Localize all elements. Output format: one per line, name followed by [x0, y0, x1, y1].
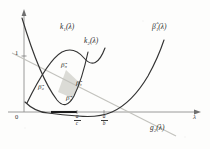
fraction-numerator: a — [98, 114, 110, 120]
fraction-denominator: c — [71, 121, 83, 127]
curve-label-beta1: β̂₁(λ) — [152, 23, 167, 31]
y-axis-arrow-icon — [22, 9, 27, 16]
origin-label: 0 — [15, 114, 18, 121]
curve-label-g2: g₂(λ) — [150, 124, 165, 132]
x-axis-label-lambda: λ — [193, 114, 196, 121]
curve-label-k1: k₁(λ) — [60, 23, 74, 31]
fraction-denominator: b — [98, 121, 110, 127]
x-tick-fraction-a-over-b: a b — [98, 114, 110, 127]
y-tick-label-1: 1 — [15, 50, 18, 57]
figure-page: k₁(λ) k₂(λ) β̂₁(λ) g₂(λ) β̂₃ β̂₂ β̂₁ β̂₄… — [0, 0, 210, 149]
curve-beta1 — [25, 40, 164, 117]
point-label-beta2: β̂₂ — [38, 84, 44, 91]
curve-label-k2: k₂(λ) — [84, 37, 98, 45]
point-label-beta4: β̂₄ — [66, 95, 72, 102]
point-label-beta3: β̂₃ — [61, 62, 67, 69]
curve-k1 — [22, 18, 88, 105]
point-label-beta1: β̂₁ — [76, 80, 82, 87]
x-tick-fraction-a-over-c: a c — [71, 114, 83, 127]
fraction-numerator: a — [71, 114, 83, 120]
